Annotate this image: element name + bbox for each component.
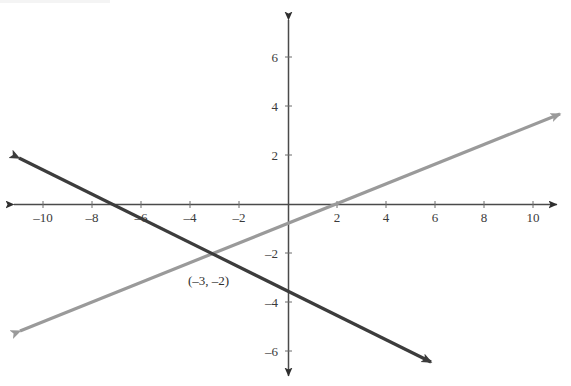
coordinate-plane-figure: –10 –8 –6 –4 –2 2 4 6 8 10 6 4 2 –2 –4 –… xyxy=(0,0,571,386)
x-tick-label-6: 6 xyxy=(424,211,446,224)
y-tick-label-neg6: –6 xyxy=(250,345,278,358)
y-tick-label-6: 6 xyxy=(256,51,278,64)
x-tick-label-neg6: –6 xyxy=(127,211,155,224)
dark-decreasing-line xyxy=(19,158,431,362)
y-tick-label-2: 2 xyxy=(256,149,278,162)
x-tick-label-neg10: –10 xyxy=(26,211,60,224)
x-tick-label-neg4: –4 xyxy=(176,211,204,224)
y-tick-label-neg4: –4 xyxy=(250,296,278,309)
y-tick-label-neg2: –2 xyxy=(250,247,278,260)
x-tick-label-2: 2 xyxy=(326,211,348,224)
x-tick-label-10: 10 xyxy=(518,211,548,224)
x-tick-label-neg8: –8 xyxy=(78,211,106,224)
x-tick-label-4: 4 xyxy=(375,211,397,224)
x-tick-label-8: 8 xyxy=(473,211,495,224)
intersection-point-label: (–3, –2) xyxy=(188,274,229,287)
x-tick-label-neg2: –2 xyxy=(225,211,253,224)
graph-canvas xyxy=(0,0,571,386)
y-tick-label-4: 4 xyxy=(256,100,278,113)
